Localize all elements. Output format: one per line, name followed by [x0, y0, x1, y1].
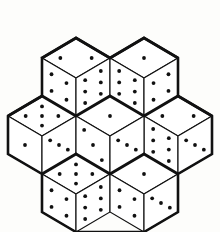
- die-middle-left-top-pip-1: [24, 114, 28, 118]
- die-middle-right-left-pip-6: [167, 159, 171, 163]
- die-middle-right-left-pip-5: [151, 150, 155, 154]
- die-bottom-left-left-pip-3: [50, 205, 54, 209]
- die-top-right-left-pip-5: [117, 92, 121, 96]
- dice-figure-root: Isometric hexagonal arrangement of seven…: [0, 0, 220, 232]
- die-middle-right-right-pip-1: [184, 138, 188, 142]
- die-top-right-left-pip-1: [117, 69, 121, 73]
- die-center-right-pip-2: [125, 143, 129, 147]
- die-bottom-right-top-pip-1: [142, 172, 146, 176]
- die-middle-left-top-pip-4: [40, 124, 44, 128]
- die-bottom-right-left-pip-4: [133, 214, 137, 218]
- die-bottom-left-right-pip-2: [99, 185, 103, 189]
- isometric-dice-illustration: [0, 0, 220, 232]
- die-top-left-right-pip-5: [83, 101, 87, 105]
- die-bottom-left-right-pip-5: [83, 217, 87, 221]
- die-top-right-right-pip-3: [152, 98, 156, 102]
- die-middle-left-right-pip-3: [66, 148, 70, 152]
- die-bottom-right-left-pip-3: [118, 205, 122, 209]
- die-bottom-left-left-pip-2: [65, 197, 69, 201]
- die-top-right-right-pip-4: [167, 89, 171, 93]
- die-top-left-left-pip-1: [50, 72, 54, 76]
- die-bottom-left-top-pip-2: [74, 163, 78, 167]
- die-top-right-right-pip-2: [167, 72, 171, 76]
- die-center-right-pip-3: [134, 148, 138, 152]
- die-middle-left-right-pip-1: [48, 138, 52, 142]
- die-middle-left-top-pip-3: [40, 114, 44, 118]
- die-bottom-left-right-pip-1: [83, 194, 87, 198]
- die-bottom-left-top-pip-3: [74, 172, 78, 176]
- die-middle-right-top-pip-1: [160, 114, 164, 118]
- die-bottom-left-top-pip-4: [74, 182, 78, 186]
- die-top-left-right-pip-1: [83, 78, 87, 82]
- die-middle-right-left-pip-3: [151, 139, 155, 143]
- die-bottom-left-left-pip-1: [50, 188, 54, 192]
- die-center-right-pip-1: [116, 138, 120, 142]
- die-top-left-top-pip-2: [90, 56, 94, 60]
- die-top-right-left-pip-4: [133, 90, 137, 94]
- die-bottom-right-right-pip-3: [168, 206, 172, 210]
- die-top-left-right-pip-6: [99, 92, 103, 96]
- die-top-left-left-pip-2: [65, 81, 69, 85]
- die-top-left-top-pip-1: [58, 56, 62, 60]
- die-middle-left-right-pip-2: [57, 143, 61, 147]
- die-middle-left-top-pip-2: [40, 105, 44, 109]
- die-top-right-left-pip-6: [133, 101, 137, 105]
- die-bottom-left-right-pip-6: [99, 208, 103, 212]
- die-center-left-pip-3: [100, 158, 104, 162]
- die-middle-left-top-pip-5: [56, 114, 60, 118]
- die-bottom-left-left-pip-4: [65, 214, 69, 218]
- die-bottom-left-top-pip-5: [90, 172, 94, 176]
- die-bottom-left-top-pip-1: [58, 172, 62, 176]
- dice-cluster: [8, 38, 212, 232]
- die-top-right-left-pip-3: [117, 81, 121, 85]
- die-center-top-pip-1: [108, 114, 112, 118]
- die-bottom-left-right-pip-4: [99, 197, 103, 201]
- die-bottom-right-left-pip-1: [118, 188, 122, 192]
- die-middle-right-left-pip-4: [167, 148, 171, 152]
- die-top-right-right-pip-1: [152, 81, 156, 85]
- die-middle-right-right-pip-2: [193, 143, 197, 147]
- die-center-left-pip-1: [82, 128, 86, 132]
- die-top-left-left-pip-3: [50, 89, 54, 93]
- die-bottom-right-right-pip-2: [159, 201, 163, 205]
- die-top-left-right-pip-3: [83, 90, 87, 94]
- die-top-left-right-pip-4: [99, 81, 103, 85]
- die-bottom-right-right-pip-1: [150, 196, 154, 200]
- die-middle-right-left-pip-1: [151, 127, 155, 131]
- die-bottom-right-left-pip-2: [133, 197, 137, 201]
- die-top-left-right-pip-2: [99, 69, 103, 73]
- die-top-left-left-pip-4: [65, 98, 69, 102]
- die-top-right-top-pip-1: [142, 56, 146, 60]
- die-middle-right-top-pip-2: [192, 114, 196, 118]
- die-middle-right-right-pip-3: [202, 148, 206, 152]
- die-bottom-left-right-pip-3: [83, 206, 87, 210]
- die-middle-right-left-pip-2: [167, 136, 171, 140]
- die-center-left-pip-2: [91, 143, 95, 147]
- die-top-right-left-pip-2: [133, 78, 137, 82]
- die-middle-left-left-pip-1: [23, 143, 27, 147]
